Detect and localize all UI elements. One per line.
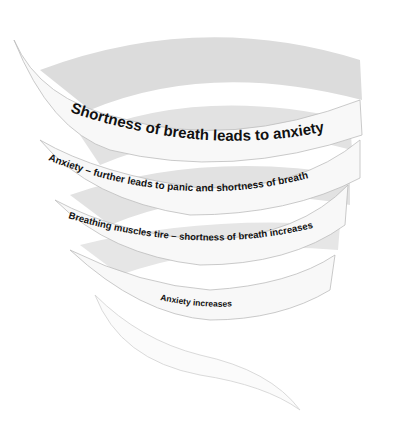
spiral-diagram: Shortness of breath leads to anxiety Anx…	[0, 0, 407, 435]
